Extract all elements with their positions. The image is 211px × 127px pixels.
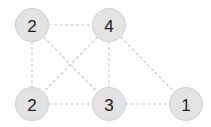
node-b: 4 [93, 9, 126, 42]
node-label: 2 [27, 96, 36, 115]
node-label: 3 [104, 96, 113, 115]
node-e: 1 [170, 88, 203, 121]
node-label: 4 [104, 17, 113, 36]
graph-diagram: 24231 [0, 0, 211, 127]
node-a: 2 [16, 9, 49, 42]
node-c: 2 [16, 88, 49, 121]
node-d: 3 [93, 88, 126, 121]
node-label: 1 [181, 96, 190, 115]
node-label: 2 [27, 17, 36, 36]
